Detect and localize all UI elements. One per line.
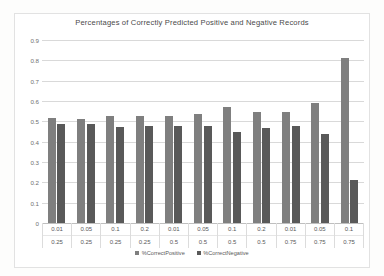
- bar-group: [159, 40, 188, 223]
- category-label-row1: 0.2: [131, 223, 159, 236]
- category-label-row2: 0.75: [306, 236, 334, 248]
- category-column: 0.20.25: [131, 223, 160, 248]
- y-axis-tick-label: 0.7: [30, 77, 39, 84]
- bar-positive[interactable]: [223, 107, 231, 223]
- category-label-row2: 0.5: [189, 236, 217, 248]
- bar-positive[interactable]: [341, 58, 349, 223]
- y-axis-tick-label: 0.6: [30, 98, 39, 105]
- y-axis-tick-label: 0.8: [30, 57, 39, 64]
- category-label-row2: 0.75: [277, 236, 305, 248]
- bar-negative[interactable]: [233, 132, 241, 223]
- category-label-row2: 0.5: [218, 236, 246, 248]
- chart-container: Percentages of Correctly Predicted Posit…: [14, 13, 370, 268]
- chart-legend: %CorrectPositive%CorrectNegative: [15, 250, 369, 256]
- bar-group: [71, 40, 100, 223]
- category-column: 0.050.25: [72, 223, 101, 248]
- bar-negative[interactable]: [145, 126, 153, 223]
- bar-group: [276, 40, 305, 223]
- category-label-row1: 0.01: [43, 223, 71, 236]
- bar-group: [247, 40, 276, 223]
- category-label-row1: 0.1: [101, 223, 129, 236]
- legend-label: %CorrectNegative: [203, 250, 248, 256]
- bar-negative[interactable]: [87, 124, 95, 223]
- chart-title: Percentages of Correctly Predicted Posit…: [15, 18, 369, 27]
- category-column: 0.050.75: [306, 223, 335, 248]
- category-label-row1: 0.05: [306, 223, 334, 236]
- legend-swatch-icon: [135, 251, 139, 255]
- bar-series-area: [42, 40, 364, 223]
- bar-positive[interactable]: [253, 112, 261, 223]
- category-label-row1: 0.05: [72, 223, 100, 236]
- bar-positive[interactable]: [194, 114, 202, 223]
- category-label-row2: 0.25: [131, 236, 159, 248]
- category-label-row2: 0.25: [43, 236, 71, 248]
- category-label-row2: 0.5: [160, 236, 188, 248]
- category-label-row1: 0.1: [218, 223, 246, 236]
- bar-group: [218, 40, 247, 223]
- category-column: 0.20.5: [247, 223, 276, 248]
- bar-negative[interactable]: [174, 126, 182, 223]
- category-column: 0.010.5: [160, 223, 189, 248]
- bar-negative[interactable]: [321, 134, 329, 223]
- category-column: 0.010.25: [43, 223, 72, 248]
- bar-negative[interactable]: [57, 124, 65, 223]
- bar-negative[interactable]: [262, 128, 270, 223]
- category-label-row2: 0.75: [335, 236, 363, 248]
- bar-positive[interactable]: [165, 116, 173, 223]
- category-label-row1: 0.01: [277, 223, 305, 236]
- bar-negative[interactable]: [116, 127, 124, 223]
- bar-group: [188, 40, 217, 223]
- category-label-row1: 0.01: [160, 223, 188, 236]
- bar-group: [335, 40, 364, 223]
- legend-swatch-icon: [197, 251, 201, 255]
- bar-group: [305, 40, 334, 223]
- bar-negative[interactable]: [350, 180, 358, 223]
- category-label-row1: 0.05: [189, 223, 217, 236]
- category-label-row1: 0.2: [247, 223, 275, 236]
- y-axis-tick-label: 0.1: [30, 199, 39, 206]
- category-label-row2: 0.25: [72, 236, 100, 248]
- category-column: 0.050.5: [189, 223, 218, 248]
- category-column: 0.10.75: [335, 223, 364, 248]
- bar-positive[interactable]: [48, 118, 56, 223]
- category-axis-table: 0.010.250.050.250.10.250.20.250.010.50.0…: [42, 223, 364, 248]
- category-column: 0.010.75: [277, 223, 306, 248]
- legend-item[interactable]: %CorrectPositive: [135, 250, 184, 256]
- bar-group: [42, 40, 71, 223]
- bar-positive[interactable]: [106, 116, 114, 223]
- bar-positive[interactable]: [311, 103, 319, 223]
- bar-negative[interactable]: [292, 126, 300, 223]
- category-column: 0.10.25: [101, 223, 130, 248]
- category-label-row2: 0.25: [101, 236, 129, 248]
- bar-positive[interactable]: [136, 116, 144, 223]
- y-axis-tick-label: 0.4: [30, 138, 39, 145]
- plot-area: 00.10.20.30.40.50.60.70.80.9: [42, 40, 364, 223]
- bar-positive[interactable]: [77, 119, 85, 223]
- y-axis-tick-label: 0.2: [30, 179, 39, 186]
- legend-label: %CorrectPositive: [142, 250, 185, 256]
- y-axis-tick-label: 0.5: [30, 118, 39, 125]
- y-axis-tick-label: 0: [36, 220, 39, 227]
- category-column: 0.10.5: [218, 223, 247, 248]
- category-label-row2: 0.5: [247, 236, 275, 248]
- legend-item[interactable]: %CorrectNegative: [197, 250, 249, 256]
- y-axis-tick-label: 0.9: [30, 37, 39, 44]
- y-axis-tick-label: 0.3: [30, 159, 39, 166]
- bar-group: [130, 40, 159, 223]
- bar-positive[interactable]: [282, 112, 290, 223]
- category-label-row1: 0.1: [335, 223, 363, 236]
- bar-negative[interactable]: [204, 126, 212, 223]
- bar-group: [101, 40, 130, 223]
